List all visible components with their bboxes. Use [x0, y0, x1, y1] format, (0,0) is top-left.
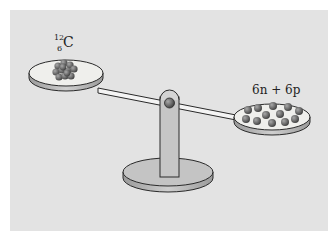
element-symbol: C: [63, 34, 74, 50]
pivot-icon: [165, 98, 175, 108]
scale-post: [160, 90, 179, 177]
atomic-number: 6: [57, 44, 62, 53]
nucleons-label: 6n + 6p: [252, 83, 300, 97]
balance-scale-illustration: [0, 0, 335, 237]
left-pan: [29, 59, 103, 91]
right-pan: [234, 102, 310, 135]
